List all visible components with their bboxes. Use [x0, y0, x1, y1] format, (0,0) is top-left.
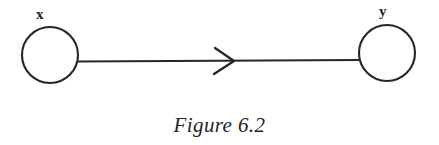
figure-container: x y Figure 6.2 — [0, 0, 439, 145]
node-label-y: y — [379, 4, 387, 19]
node-circle-x — [22, 27, 78, 83]
node-circle-y — [359, 25, 415, 81]
edge-line-x-to-y — [78, 60, 359, 62]
graph-diagram — [0, 0, 439, 105]
figure-caption: Figure 6.2 — [0, 112, 439, 138]
node-label-x: x — [36, 7, 44, 22]
